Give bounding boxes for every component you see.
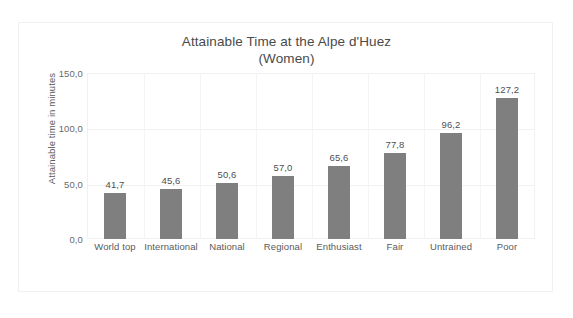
x-axis-tick-label: Fair: [367, 241, 423, 252]
bar-slot: 57,0: [255, 73, 311, 239]
bar[interactable]: [104, 193, 126, 239]
y-axis-tick-label: 50,0: [37, 178, 83, 189]
chart-title-line1: Attainable Time at the Alpe d'Huez: [182, 34, 391, 49]
bar-value-label: 50,6: [218, 169, 237, 180]
bar[interactable]: [160, 189, 182, 239]
bar-value-label: 45,6: [162, 175, 181, 186]
bar-slot: 65,6: [311, 73, 367, 239]
bar-slot: 96,2: [423, 73, 479, 239]
x-axis-tick-label: Untrained: [423, 241, 479, 252]
bar-slot: 50,6: [199, 73, 255, 239]
bar[interactable]: [216, 183, 238, 239]
bar[interactable]: [272, 176, 294, 239]
x-axis-tick-labels: World topInternationalNationalRegionalEn…: [87, 241, 535, 261]
clipped-text-strip: [0, 0, 573, 12]
chart-screenshot: Attainable Time at the Alpe d'Huez (Wome…: [0, 0, 573, 318]
y-axis-tick-label: 150,0: [37, 68, 83, 79]
bar-slot: 41,7: [87, 73, 143, 239]
bar-value-label: 65,6: [330, 152, 349, 163]
x-axis-tick-label: National: [199, 241, 255, 252]
chart-frame: Attainable Time at the Alpe d'Huez (Wome…: [18, 22, 553, 292]
x-axis-tick-label: Poor: [479, 241, 535, 252]
bar-slot: 45,6: [143, 73, 199, 239]
bar-value-label: 127,2: [495, 84, 519, 95]
bar-value-label: 41,7: [106, 179, 125, 190]
bar[interactable]: [384, 153, 406, 239]
chart-title: Attainable Time at the Alpe d'Huez (Wome…: [19, 33, 554, 67]
bar[interactable]: [328, 166, 350, 239]
bar[interactable]: [496, 98, 518, 239]
y-axis-tick-label: 100,0: [37, 123, 83, 134]
y-axis-tick-labels: 0,050,0100,0150,0: [33, 73, 83, 239]
bar[interactable]: [440, 133, 462, 239]
bar-series: 41,745,650,657,065,677,896,2127,2: [87, 73, 535, 239]
x-axis-tick-label: Regional: [255, 241, 311, 252]
x-axis-tick-label: World top: [87, 241, 143, 252]
bar-slot: 127,2: [479, 73, 535, 239]
y-axis-tick-label: 0,0: [37, 234, 83, 245]
bar-value-label: 77,8: [386, 139, 405, 150]
bar-value-label: 57,0: [274, 162, 293, 173]
x-axis-tick-label: Enthusiast: [311, 241, 367, 252]
chart-title-line2: (Women): [19, 50, 554, 67]
x-axis-tick-label: International: [143, 241, 199, 252]
bar-value-label: 96,2: [442, 119, 461, 130]
bar-slot: 77,8: [367, 73, 423, 239]
